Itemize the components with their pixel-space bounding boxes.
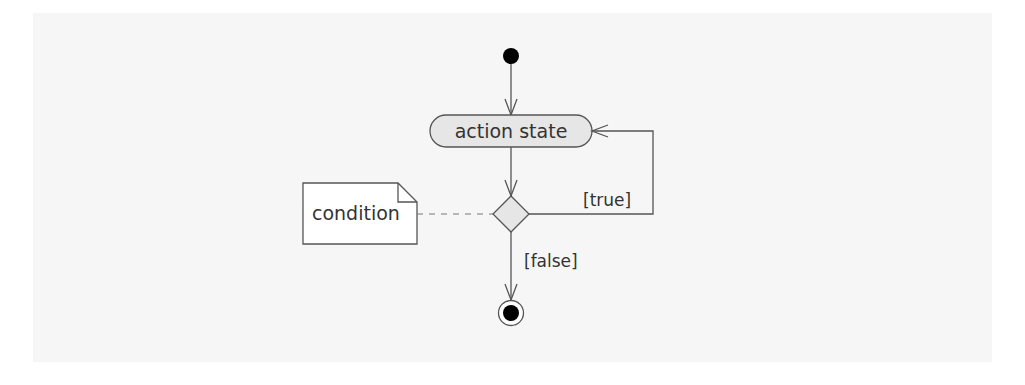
final-node	[499, 301, 524, 326]
true-guard-label: [true]	[583, 190, 631, 210]
action-state-label: action state	[455, 120, 568, 142]
decision-node	[493, 196, 529, 232]
condition-note-label: condition	[312, 202, 400, 224]
action-state-node: action state	[430, 115, 592, 147]
edge-false-to-final	[505, 232, 517, 300]
false-guard-label: [false]	[524, 251, 578, 271]
edge-initial-to-action	[505, 64, 517, 115]
edge-action-to-decision	[505, 147, 517, 196]
condition-note: condition	[303, 183, 417, 244]
initial-node	[503, 48, 519, 64]
activity-diagram: action state [true] [false] condition	[0, 0, 1025, 385]
